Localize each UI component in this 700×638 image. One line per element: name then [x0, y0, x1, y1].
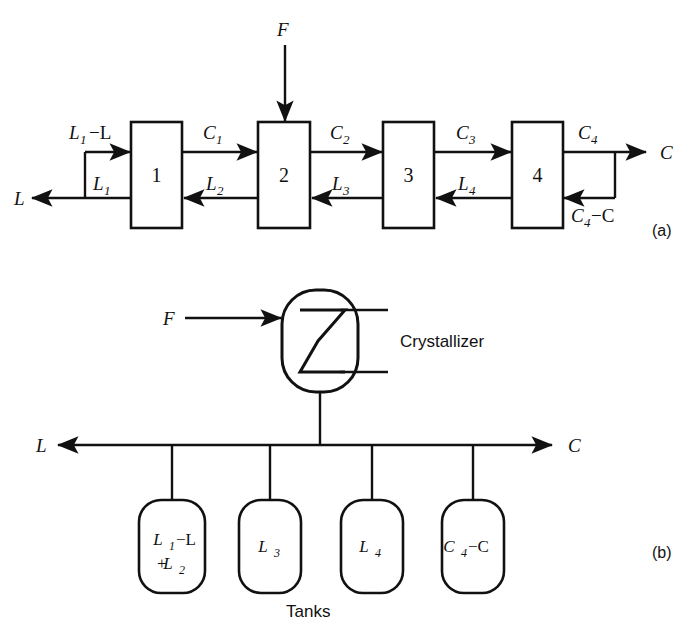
- svg-text:L: L: [331, 173, 343, 194]
- panel-a: 1 2 3 4 F L 1 −L C 1 C 2 C 3: [13, 19, 673, 239]
- crystallizer-label: Crystallizer: [400, 332, 484, 351]
- stream-label-l3: L 3: [331, 173, 350, 198]
- crystallizer-vessel: [282, 290, 358, 392]
- svg-text:2: 2: [179, 563, 185, 577]
- feed-label-b: F: [162, 308, 175, 329]
- svg-text:C: C: [443, 537, 455, 556]
- svg-text:L: L: [257, 537, 267, 556]
- outlet-label-c-a: C: [660, 142, 673, 163]
- svg-text:C: C: [203, 122, 216, 143]
- svg-text:1: 1: [80, 132, 87, 147]
- svg-text:L: L: [68, 122, 80, 143]
- svg-text:C: C: [456, 122, 469, 143]
- svg-text:2: 2: [343, 132, 350, 147]
- unit-box-4-number: 4: [533, 164, 543, 186]
- svg-text:C: C: [578, 122, 591, 143]
- unit-box-3-number: 3: [404, 164, 414, 186]
- svg-text:−C: −C: [468, 537, 489, 556]
- panel-b: F Crystallizer L C: [35, 290, 672, 621]
- stream-label-c1: C 1: [203, 122, 223, 147]
- stream-label-l1: L 1: [92, 173, 111, 198]
- stream-label-c4-minus-c: C 4 −C: [571, 205, 614, 230]
- svg-text:4: 4: [584, 215, 591, 230]
- unit-box-1-number: 1: [152, 164, 162, 186]
- svg-text:3: 3: [342, 183, 350, 198]
- stream-label-c2: C 2: [330, 122, 350, 147]
- svg-text:2: 2: [217, 183, 224, 198]
- svg-text:L: L: [92, 173, 104, 194]
- svg-text:−C: −C: [591, 205, 614, 226]
- panel-b-caption: (b): [652, 544, 672, 561]
- svg-text:1: 1: [169, 539, 175, 553]
- stream-label-l4: L 4: [457, 173, 476, 198]
- tank-3: [341, 500, 403, 593]
- svg-text:4: 4: [461, 546, 467, 560]
- tank-2: [239, 500, 301, 593]
- unit-box-2-number: 2: [279, 164, 289, 186]
- feed-label-a: F: [276, 19, 289, 40]
- stream-label-c4: C 4: [578, 122, 598, 147]
- svg-text:C: C: [330, 122, 343, 143]
- svg-text:4: 4: [375, 546, 381, 560]
- outlet-label-l-a: L: [13, 188, 25, 209]
- svg-text:3: 3: [468, 132, 476, 147]
- svg-text:L: L: [205, 173, 217, 194]
- svg-text:−L: −L: [89, 122, 111, 143]
- stream-label-c3: C 3: [456, 122, 476, 147]
- outlet-label-c-b: C: [568, 435, 581, 456]
- figure-canvas: 1 2 3 4 F L 1 −L C 1 C 2 C 3: [0, 0, 700, 638]
- stream-label-l2: L 2: [205, 173, 224, 198]
- stream-label-l1-minus-l: L 1 −L: [68, 122, 111, 147]
- process-flow-diagram: 1 2 3 4 F L 1 −L C 1 C 2 C 3: [0, 0, 700, 638]
- svg-text:L: L: [162, 554, 172, 573]
- tanks-caption: Tanks: [286, 602, 330, 621]
- svg-text:C: C: [571, 205, 584, 226]
- outlet-label-l-b: L: [35, 435, 47, 456]
- svg-text:L: L: [457, 173, 469, 194]
- svg-text:−L: −L: [176, 530, 196, 549]
- svg-text:4: 4: [591, 132, 598, 147]
- svg-text:1: 1: [216, 132, 223, 147]
- svg-text:4: 4: [469, 183, 476, 198]
- svg-text:3: 3: [273, 546, 280, 560]
- svg-text:L: L: [358, 537, 368, 556]
- panel-a-caption: (a): [652, 222, 672, 239]
- svg-text:L: L: [152, 530, 162, 549]
- svg-text:1: 1: [104, 183, 111, 198]
